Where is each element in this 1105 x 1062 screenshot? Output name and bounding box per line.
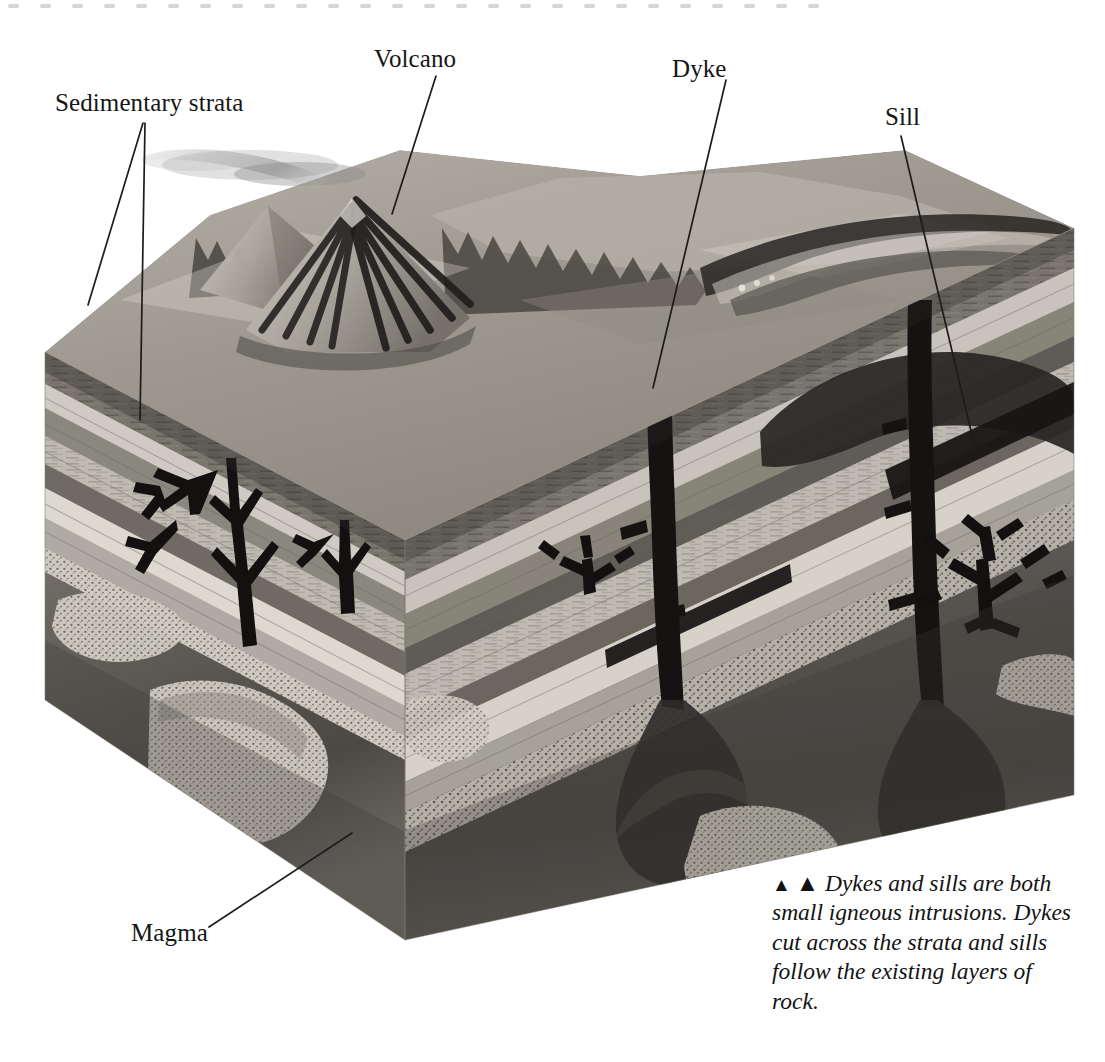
label-dyke: Dyke: [672, 56, 727, 82]
caption-text: ▲ Dykes and sills are both small igneous…: [772, 870, 1071, 1014]
label-sill: Sill: [885, 104, 920, 130]
label-volcano: Volcano: [374, 46, 456, 72]
geological-block-diagram: Sedimentary strata Volcano Dyke Sill Mag…: [0, 0, 1105, 1062]
caption-triangle-marker: ▲: [772, 874, 791, 895]
label-magma: Magma: [131, 920, 208, 946]
label-sedimentary-strata: Sedimentary strata: [55, 90, 244, 116]
figure-caption: ▲▲ Dykes and sills are both small igneou…: [772, 869, 1082, 1016]
